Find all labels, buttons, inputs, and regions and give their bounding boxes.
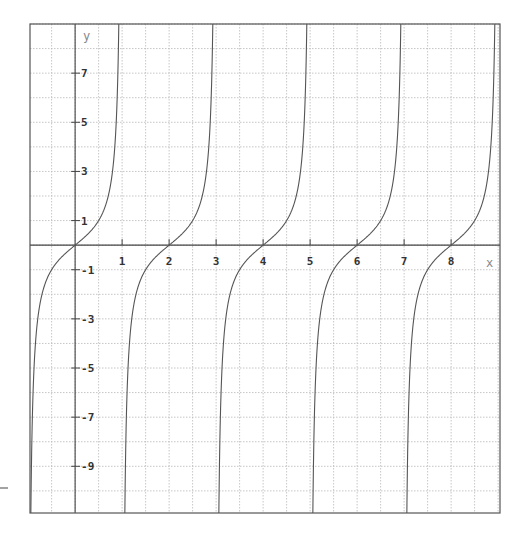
x-tick-label: 2 (166, 255, 173, 268)
chart-canvas: 123456787531-1-3-5-7-9 x y (0, 0, 524, 534)
x-tick-label: 3 (213, 255, 220, 268)
x-tick-label: 1 (119, 255, 126, 268)
y-tick-label: 5 (81, 116, 88, 129)
x-tick-label: 8 (448, 255, 455, 268)
y-tick-label: -3 (81, 313, 94, 326)
y-tick-label: 7 (81, 67, 88, 80)
x-tick-label: 6 (354, 255, 361, 268)
curve-branch (30, 12, 122, 526)
grid-lines (30, 24, 500, 513)
y-tick-label: 3 (81, 165, 88, 178)
x-tick-label: 7 (401, 255, 408, 268)
y-tick-label: -7 (81, 411, 94, 424)
y-axis-label: y (83, 29, 90, 43)
y-tick-label: -5 (81, 362, 94, 375)
y-tick-label: -1 (81, 264, 95, 277)
y-tick-label: 1 (81, 215, 88, 228)
y-tick-label: -9 (81, 460, 94, 473)
x-tick-label: 4 (260, 255, 267, 268)
x-tick-label: 5 (307, 255, 314, 268)
x-axis-label: x (486, 256, 493, 270)
